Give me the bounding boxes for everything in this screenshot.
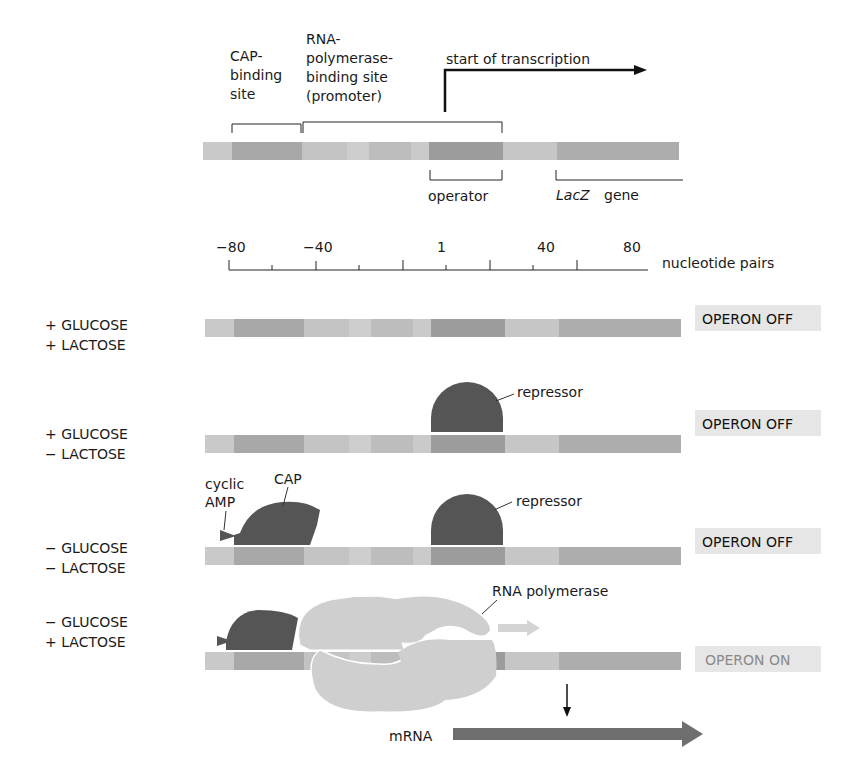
tick-label: −80 (216, 239, 246, 255)
cap-site-bracket (232, 124, 301, 133)
start-of-transcription-label: start of transcription (446, 51, 590, 67)
cap-site-label: CAP- binding site (230, 48, 287, 102)
lacz-label: LacZ (556, 187, 590, 203)
dna-strand (205, 319, 681, 337)
repressor-protein (431, 494, 503, 545)
glucose-label: − GLUCOSE (45, 614, 128, 630)
repressor-label: repressor (517, 384, 583, 400)
arrowhead-icon (682, 721, 703, 747)
promoter-label: RNA- polymerase- binding site (promoter) (306, 31, 398, 104)
status-text: OPERON OFF (702, 534, 793, 550)
condition-row-1: + GLUCOSE + LACTOSE OPERON OFF (45, 305, 821, 353)
rna-polymerase-clamp (392, 596, 490, 640)
glucose-label: + GLUCOSE (45, 426, 128, 442)
lactose-label: − LACTOSE (45, 560, 126, 576)
tick-label: −40 (303, 239, 333, 255)
mrna-arrow (453, 728, 683, 740)
cyclic-amp-molecule (220, 530, 236, 541)
cap-label: CAP (274, 471, 302, 487)
dna-strand-reference (203, 142, 679, 160)
operator-label: operator (428, 188, 488, 204)
repressor-protein (431, 382, 503, 432)
transcription-start-arrow (445, 70, 636, 112)
nucleotide-scale: −80 −40 1 40 80 nucleotide pairs (216, 239, 774, 271)
glucose-label: + GLUCOSE (45, 317, 128, 333)
cap-protein (234, 502, 320, 545)
arrowhead-icon (563, 707, 571, 717)
repressor-label: repressor (516, 493, 582, 509)
scale-unit-label: nucleotide pairs (662, 255, 774, 271)
lacz-bracket (556, 170, 683, 180)
rna-polymerase-lower (398, 639, 497, 700)
operator-bracket (430, 170, 502, 180)
gene-label: gene (604, 187, 639, 203)
header-annotations: CAP- binding site RNA- polymerase- bindi… (203, 31, 683, 204)
glucose-label: − GLUCOSE (45, 540, 128, 556)
tick-label: 1 (437, 239, 446, 255)
mrna-label: mRNA (389, 728, 433, 744)
cap-protein (226, 610, 298, 650)
tick-label: 40 (537, 239, 555, 255)
arrowhead-icon (527, 620, 540, 636)
movement-arrow (498, 624, 528, 632)
lac-operon-diagram: CAP- binding site RNA- polymerase- bindi… (0, 0, 860, 773)
status-text: OPERON ON (705, 652, 790, 668)
condition-row-3: − GLUCOSE − LACTOSE cyclic AMP CAP repre… (45, 471, 821, 576)
condition-row-2: + GLUCOSE − LACTOSE repressor OPERON OFF (45, 382, 821, 462)
lactose-label: − LACTOSE (45, 446, 126, 462)
arrowhead-icon (634, 65, 647, 75)
cyclic-amp-label: cyclic AMP (205, 476, 249, 510)
lactose-label: + LACTOSE (45, 337, 126, 353)
condition-row-4: − GLUCOSE + LACTOSE RNA polymerase OPERO… (45, 583, 821, 747)
tick-label: 80 (623, 239, 641, 255)
dna-strand (205, 547, 681, 565)
status-text: OPERON OFF (702, 416, 793, 432)
rna-polymerase-label: RNA polymerase (492, 583, 608, 599)
dna-strand (205, 435, 681, 453)
lactose-label: + LACTOSE (45, 634, 126, 650)
status-text: OPERON OFF (702, 311, 793, 327)
promoter-bracket (303, 122, 502, 133)
